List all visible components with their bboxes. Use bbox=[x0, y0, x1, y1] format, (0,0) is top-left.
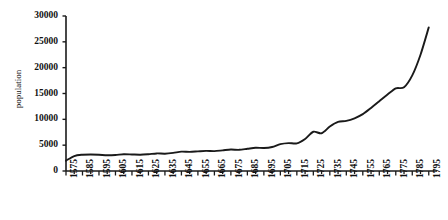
y-axis-tick-label: 10000 bbox=[0, 114, 58, 124]
x-axis-tick-label: 1755 bbox=[367, 159, 377, 178]
x-axis-tick-label: 1705 bbox=[284, 159, 294, 178]
x-axis-tick-label: 1595 bbox=[103, 159, 113, 178]
x-axis-tick-label: 1585 bbox=[86, 159, 96, 178]
x-axis-tick-label: 1645 bbox=[185, 159, 195, 178]
x-axis-tick-label: 1795 bbox=[433, 159, 443, 178]
axes bbox=[63, 16, 438, 176]
x-axis-tick-label: 1605 bbox=[119, 159, 129, 178]
y-axis-tick-label: 30000 bbox=[0, 11, 58, 21]
x-axis-tick-label: 1575 bbox=[70, 159, 80, 178]
x-axis-tick-label: 1775 bbox=[400, 159, 410, 178]
x-axis-tick-label: 1695 bbox=[268, 159, 278, 178]
x-axis-tick-label: 1635 bbox=[169, 159, 179, 178]
x-axis-tick-label: 1745 bbox=[350, 159, 360, 178]
population-line bbox=[66, 27, 429, 160]
population-line-chart: population 05000100001500020000250003000… bbox=[0, 0, 448, 220]
x-axis-tick-label: 1725 bbox=[317, 159, 327, 178]
x-axis-tick-label: 1665 bbox=[218, 159, 228, 178]
y-axis-tick-label: 25000 bbox=[0, 37, 58, 47]
chart-page: population 05000100001500020000250003000… bbox=[0, 0, 448, 220]
x-axis-tick-label: 1675 bbox=[235, 159, 245, 178]
y-axis-tick-label: 20000 bbox=[0, 63, 58, 73]
x-axis-tick-label: 1765 bbox=[383, 159, 393, 178]
population-series bbox=[66, 27, 429, 160]
x-axis-tick-label: 1685 bbox=[251, 159, 261, 178]
x-axis-tick-label: 1615 bbox=[136, 159, 146, 178]
y-axis-tick-label: 5000 bbox=[0, 140, 58, 150]
y-axis-tick-label: 0 bbox=[0, 166, 58, 176]
x-axis-tick-label: 1735 bbox=[334, 159, 344, 178]
plot-canvas bbox=[0, 0, 448, 220]
y-axis-tick-label: 15000 bbox=[0, 89, 58, 99]
x-axis-tick-label: 1625 bbox=[152, 159, 162, 178]
x-axis-tick-label: 1715 bbox=[301, 159, 311, 178]
x-axis-tick-label: 1655 bbox=[202, 159, 212, 178]
x-axis-tick-label: 1785 bbox=[416, 159, 426, 178]
